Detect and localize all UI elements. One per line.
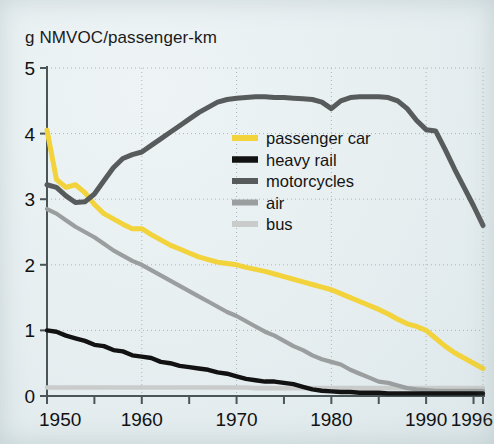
y-tick-label: 1: [24, 320, 35, 341]
y-tick-label: 5: [24, 58, 35, 79]
chart-legend: passenger carheavy railmotorcyclesairbus: [232, 129, 371, 233]
axis-tick-labels: 012345195019601970198019901996: [24, 58, 493, 430]
series-line-motorcycles: [47, 97, 483, 226]
legend-label-motorcycles: motorcycles: [266, 172, 354, 190]
legend-label-passenger-car: passenger car: [266, 129, 371, 147]
legend-label-heavy-rail: heavy rail: [266, 151, 337, 169]
data-series: [47, 97, 483, 394]
legend-label-bus: bus: [266, 215, 293, 233]
y-tick-label: 2: [24, 255, 35, 276]
y-tick-label: 0: [24, 386, 35, 407]
chart-page: g NMVOC/passenger-km 0123451950196019701…: [0, 0, 494, 444]
y-tick-label: 4: [24, 124, 35, 145]
gridlines: [47, 68, 483, 396]
y-tick-label: 3: [24, 189, 35, 210]
line-chart: 012345195019601970198019901996 passenger…: [0, 0, 494, 444]
x-tick-label: 1980: [310, 409, 352, 430]
x-tick-label: 1990: [405, 409, 447, 430]
x-tick-label: 1950: [39, 409, 81, 430]
x-tick-label: 1996: [451, 409, 493, 430]
x-tick-label: 1960: [121, 409, 163, 430]
legend-label-air: air: [266, 194, 285, 212]
series-line-air: [47, 209, 483, 391]
x-tick-label: 1970: [215, 409, 257, 430]
series-line-heavy-rail: [47, 330, 483, 393]
